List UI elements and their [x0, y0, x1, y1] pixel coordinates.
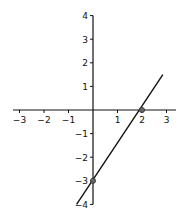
line-chart: −3−2−11234321−1−2−3−4 — [0, 0, 182, 216]
y-tick-label: −3 — [75, 176, 88, 186]
x-tick-label: 2 — [139, 115, 145, 125]
y-tick-label: −2 — [75, 153, 88, 163]
axes — [13, 16, 176, 205]
y-tick-label: 4 — [82, 11, 88, 21]
y-tick-label: 2 — [82, 58, 88, 68]
intercept-point — [90, 178, 95, 183]
x-tick-label: 3 — [164, 115, 170, 125]
series-line — [77, 75, 163, 205]
y-tick-label: −1 — [75, 129, 88, 139]
y-tick-label: 3 — [82, 35, 88, 45]
x-tick-label: −2 — [37, 115, 50, 125]
y-tick-label: −4 — [75, 200, 89, 210]
x-tick-label: −1 — [62, 115, 75, 125]
x-tick-label: 1 — [115, 115, 121, 125]
intercept-point — [139, 107, 144, 112]
x-tick-label: −3 — [13, 115, 26, 125]
line-y-equals-1.5x-minus-3 — [77, 75, 163, 205]
y-tick-label: 1 — [82, 82, 88, 92]
